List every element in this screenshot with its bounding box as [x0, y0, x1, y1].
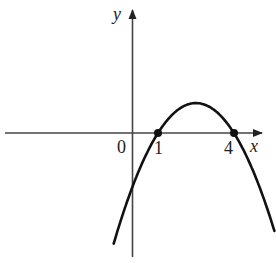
y-axis-label: y: [111, 4, 121, 24]
root-point-1: [154, 129, 162, 137]
root-point-4: [230, 129, 238, 137]
parabola-figure: y x 0 1 4: [0, 0, 276, 263]
tick-label-1: 1: [154, 138, 163, 158]
x-axis-label: x: [249, 136, 258, 156]
origin-label: 0: [117, 137, 126, 157]
parabola-curve: [114, 103, 275, 244]
tick-label-4: 4: [224, 138, 233, 158]
